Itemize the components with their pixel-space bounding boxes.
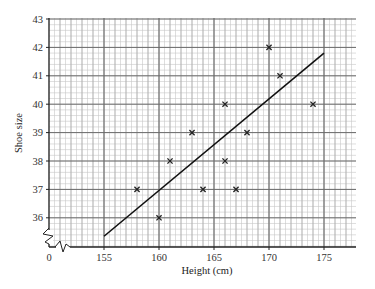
y-tick-label: 42 (33, 42, 44, 53)
grid-major-lines (49, 18, 356, 247)
y-tick-label: 41 (33, 70, 44, 81)
y-tick-label: 39 (33, 127, 44, 138)
y-tick-label: 40 (33, 99, 44, 110)
y-tick-label: 43 (33, 14, 44, 25)
y-axis-title: Shoe size (13, 113, 24, 153)
x-tick-label: 170 (261, 252, 277, 263)
y-tick-label: 38 (33, 156, 44, 167)
y-axis-tick-labels: 3637383940414243 (33, 14, 44, 224)
x-origin-label: 0 (46, 252, 51, 263)
x-tick-label: 165 (206, 252, 222, 263)
y-tick-label: 37 (33, 184, 44, 195)
y-tick-label: 36 (33, 212, 44, 223)
scatter-chart: 3637383940414243 155160165170175 Height … (0, 0, 375, 289)
x-tick-label: 160 (151, 252, 167, 263)
x-tick-label: 175 (316, 252, 332, 263)
x-axis-tick-labels: 155160165170175 (96, 252, 332, 263)
x-tick-label: 155 (96, 252, 112, 263)
x-axis-title: Height (cm) (181, 265, 233, 277)
